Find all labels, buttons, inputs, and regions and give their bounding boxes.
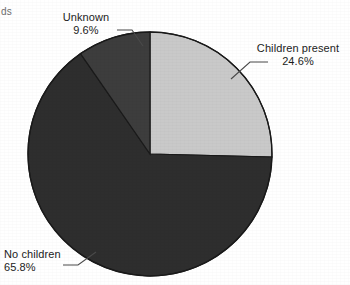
pie-label-unknown: Unknown 9.6%: [42, 11, 130, 37]
pie-label-unknown-name: Unknown: [42, 11, 130, 24]
pie-label-children-present: Children present 24.6%: [249, 42, 347, 68]
pie-label-children-present-value: 24.6%: [249, 55, 347, 68]
pie-chart-figure: ds Unknown 9.6% Children present 24.6% N…: [0, 0, 350, 285]
pie-label-no-children-value: 65.8%: [4, 261, 94, 274]
pie-label-no-children-name: No children: [4, 248, 94, 261]
pie-label-unknown-value: 9.6%: [42, 24, 130, 37]
pie-label-no-children: No children 65.8%: [4, 248, 94, 274]
pie-label-children-present-name: Children present: [249, 42, 347, 55]
